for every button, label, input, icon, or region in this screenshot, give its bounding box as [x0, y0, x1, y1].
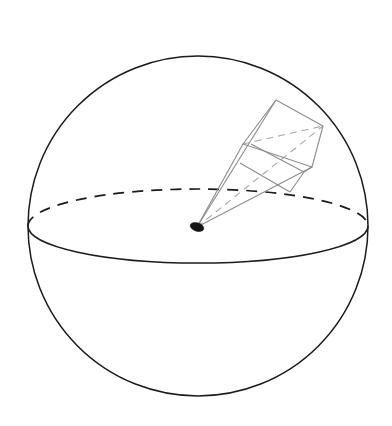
sphere-center-point [189, 221, 205, 233]
equator-back-dashed-arc [28, 189, 368, 226]
pyramid-hidden-edge-apex-to-right [197, 126, 323, 227]
pyramid-side-connector-right [304, 167, 312, 172]
pyramid-near-cross-section-quad [240, 144, 304, 192]
sphere-solid-angle-diagram [0, 0, 392, 426]
figure-root: Solid angle subtended at the centre of a… [0, 0, 392, 426]
pyramid-edge-apex-to-top [197, 100, 276, 227]
